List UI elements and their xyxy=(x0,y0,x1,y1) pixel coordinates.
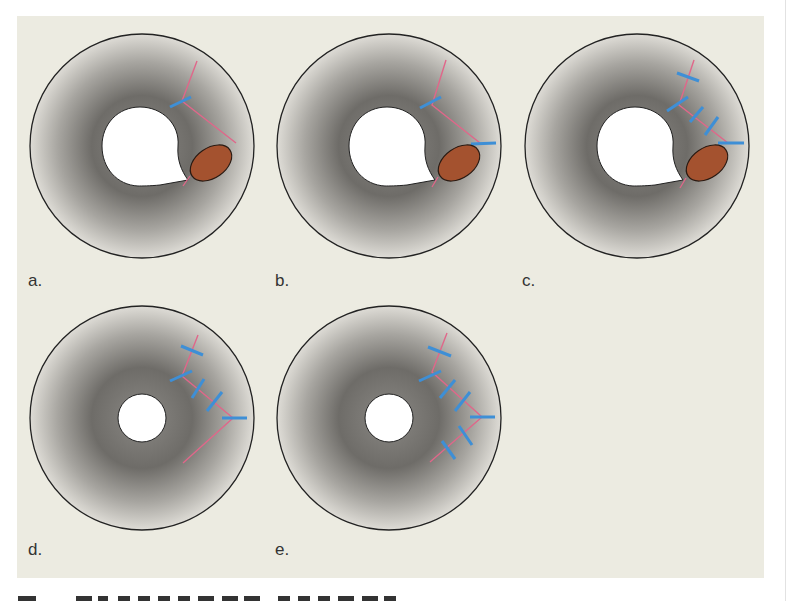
figure-caption-clipped xyxy=(18,596,438,601)
suture-diagram xyxy=(0,0,787,601)
panel-label-b: b. xyxy=(275,272,289,289)
panel-d xyxy=(30,306,254,530)
panel-b xyxy=(277,34,501,258)
panel-label-c: c. xyxy=(522,272,535,289)
panel-e xyxy=(277,306,501,530)
panel-c xyxy=(525,34,749,258)
panel-a xyxy=(30,34,254,258)
panel-label-a: a. xyxy=(28,272,42,289)
stitch xyxy=(471,143,496,144)
round-hole xyxy=(118,394,166,442)
panel-label-d: d. xyxy=(28,541,42,558)
panel-label-e: e. xyxy=(275,541,289,558)
round-hole xyxy=(365,394,413,442)
